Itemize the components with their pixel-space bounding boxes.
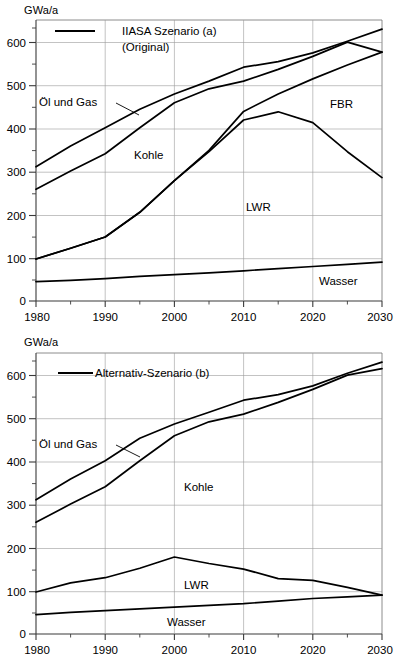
annotation-oel-und-gas-top: Öl und Gas [39, 96, 97, 108]
annotation-lwr-top: LWR [246, 201, 271, 213]
xtick-label-1990-b: 1990 [92, 644, 118, 656]
plot-area-top: 0 100 200 300 400 500 600 1980 1990 2000… [0, 0, 400, 336]
annotation-kohle-bottom: Kohle [184, 481, 213, 493]
xtick-label-2010-b: 2010 [231, 644, 257, 656]
xtick-label-2000-b: 2000 [162, 644, 188, 656]
annotation-lwr-bottom: LWR [184, 579, 209, 591]
ytick-label-500: 500 [7, 80, 26, 92]
legend-label-line1-bottom: Alternativ-Szenario (b) [95, 367, 210, 379]
legend-label-line2-top: (Original) [122, 41, 169, 53]
xtick-label-2030: 2030 [367, 311, 393, 323]
ytick-label-400-b: 400 [7, 456, 26, 468]
ytick-label-100-b: 100 [7, 586, 26, 598]
ytick-label-300: 300 [7, 166, 26, 178]
xtick-label-2010: 2010 [231, 311, 257, 323]
ytick-label-0: 0 [20, 295, 26, 307]
ytick-label-200-b: 200 [7, 543, 26, 555]
series-curve-lwr-b [36, 557, 382, 595]
ytick-label-600-b: 600 [7, 370, 26, 382]
ytick-label-0-b: 0 [20, 628, 26, 640]
ytick-label-200: 200 [7, 210, 26, 222]
xtick-label-2020: 2020 [300, 311, 326, 323]
xtick-label-1980-b: 1980 [24, 644, 50, 656]
xtick-label-2000: 2000 [162, 311, 188, 323]
legend-label-line1-top: IIASA Szenario (a) [122, 25, 217, 37]
annotation-wasser-top: Wasser [319, 275, 358, 287]
ytick-label-400: 400 [7, 123, 26, 135]
ytick-label-300-b: 300 [7, 499, 26, 511]
series-curve-fbr [36, 52, 382, 259]
chart-alternativ-szenario: GWa/a [0, 336, 400, 671]
series-curve-lwr [36, 112, 382, 259]
annotation-kohle-top: Kohle [134, 149, 163, 161]
xtick-label-2030-b: 2030 [367, 644, 393, 656]
leader-line-oel-und-gas-top [116, 103, 139, 115]
ytick-label-100: 100 [7, 253, 26, 265]
series-curve-kohle [36, 42, 382, 189]
xtick-label-1980: 1980 [24, 311, 50, 323]
annotation-wasser-bottom: Wasser [167, 616, 206, 628]
annotation-oel-und-gas-bottom: Öl und Gas [39, 438, 97, 450]
xtick-label-1990: 1990 [92, 311, 118, 323]
plot-area-bottom: 0 100 200 300 400 500 600 1980 1990 2000… [0, 336, 400, 671]
ytick-label-500-b: 500 [7, 413, 26, 425]
ytick-label-600: 600 [7, 37, 26, 49]
figure-page: GWa/a [0, 0, 400, 671]
chart-iiasa-original: GWa/a [0, 0, 400, 336]
series-curve-wasser-b [36, 595, 382, 615]
annotation-fbr-top: FBR [330, 98, 353, 110]
xtick-label-2020-b: 2020 [300, 644, 326, 656]
